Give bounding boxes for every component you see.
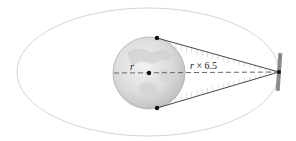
- satellite-point: [277, 70, 281, 74]
- distance-label: r × 6.5: [190, 60, 217, 71]
- earth-radius-label: r: [130, 61, 134, 72]
- distance-label-multiplier: × 6.5: [194, 60, 217, 71]
- orbit-diagram: r r × 6.5: [0, 0, 296, 141]
- tangent-point-bottom: [155, 106, 159, 110]
- tangent-point-top: [155, 36, 159, 40]
- earth-center-point: [147, 71, 151, 75]
